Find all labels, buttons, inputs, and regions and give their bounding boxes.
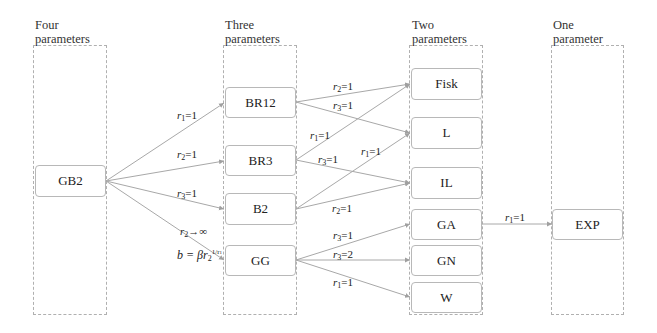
node-label: B2 bbox=[253, 201, 268, 217]
node-label: BR12 bbox=[245, 95, 275, 111]
edge-label-b2-il: r2=1 bbox=[332, 202, 352, 218]
edge-label-b2-l: r1=1 bbox=[361, 145, 381, 161]
node-label: IL bbox=[440, 175, 452, 191]
node-label: Fisk bbox=[435, 76, 457, 92]
node-il: IL bbox=[411, 167, 482, 199]
node-label: GA bbox=[437, 217, 456, 233]
edge-gb2-b2 bbox=[106, 181, 224, 209]
node-w: W bbox=[411, 282, 482, 313]
node-l: L bbox=[411, 117, 482, 149]
edge-label-gb2-gg: r2→∞ bbox=[180, 225, 207, 241]
edge-label-gg-gn: r3=2 bbox=[333, 248, 353, 264]
edge-label-br12-l: r3=1 bbox=[333, 99, 353, 115]
edge-gg-w bbox=[296, 260, 410, 297]
node-b2: B2 bbox=[225, 193, 296, 225]
node-label: EXP bbox=[575, 217, 600, 233]
node-exp: EXP bbox=[552, 209, 623, 240]
node-ga: GA bbox=[411, 209, 482, 240]
node-label: BR3 bbox=[249, 153, 273, 169]
edge-label-br12-fisk: r2=1 bbox=[333, 80, 353, 96]
node-label: W bbox=[440, 290, 452, 306]
edge-gb2-br3 bbox=[106, 161, 224, 181]
edge-b2-il bbox=[296, 183, 410, 209]
edge-label-gg-w: r1=1 bbox=[333, 276, 353, 292]
edge-gg-ga bbox=[296, 224, 410, 260]
node-br3: BR3 bbox=[225, 145, 296, 176]
edge-br3-fisk bbox=[296, 84, 410, 160]
node-gg: GG bbox=[225, 245, 296, 276]
edge-label-br3-il: r3=1 bbox=[318, 153, 338, 169]
node-label: L bbox=[443, 125, 451, 141]
edge-label-gb2-b2: r3=1 bbox=[177, 187, 197, 203]
edge-label-ga-exp: r1=1 bbox=[505, 211, 525, 227]
node-gb2: GB2 bbox=[35, 165, 106, 197]
node-fisk: Fisk bbox=[411, 68, 482, 100]
node-br12: BR12 bbox=[225, 87, 296, 118]
edge-label-gb2-gg-scale: b = βr21/r1 bbox=[177, 246, 222, 265]
node-label: GN bbox=[437, 253, 456, 269]
edge-label-gg-ga: r3=1 bbox=[333, 229, 353, 245]
edge-br12-fisk bbox=[296, 84, 410, 102]
edge-label-br3-fisk: r1=1 bbox=[310, 129, 330, 145]
node-label: GB2 bbox=[58, 173, 83, 189]
edge-gb2-br12 bbox=[106, 103, 224, 181]
node-gn: GN bbox=[411, 245, 482, 276]
edge-label-gb2-br3: r2=1 bbox=[177, 148, 197, 164]
node-label: GG bbox=[251, 253, 270, 269]
edge-label-gb2-br12: r1=1 bbox=[177, 109, 197, 125]
